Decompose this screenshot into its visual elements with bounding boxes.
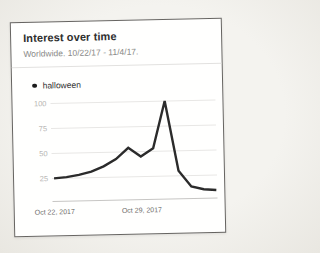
svg-text:50: 50	[39, 149, 48, 158]
photo-background: Interest over time Worldwide. 10/22/17 -…	[0, 0, 243, 253]
chart-title: Interest over time	[23, 28, 209, 44]
legend-label: halloween	[43, 80, 81, 91]
card-header: Interest over time Worldwide. 10/22/17 -…	[11, 19, 222, 59]
svg-text:25: 25	[40, 174, 49, 183]
chart-subtitle: Worldwide. 10/22/17 - 11/4/17.	[23, 45, 209, 59]
svg-text:Oct 29, 2017: Oct 29, 2017	[122, 206, 162, 214]
svg-text:100: 100	[34, 99, 47, 108]
trends-card: Interest over time Worldwide. 10/22/17 -…	[10, 18, 226, 237]
legend: halloween	[12, 64, 222, 91]
trend-chart: 255075100Oct 22, 2017Oct 29, 2017	[24, 91, 227, 221]
svg-text:75: 75	[39, 124, 48, 133]
legend-dot-icon	[32, 83, 37, 88]
svg-text:Oct 22, 2017: Oct 22, 2017	[35, 208, 75, 216]
